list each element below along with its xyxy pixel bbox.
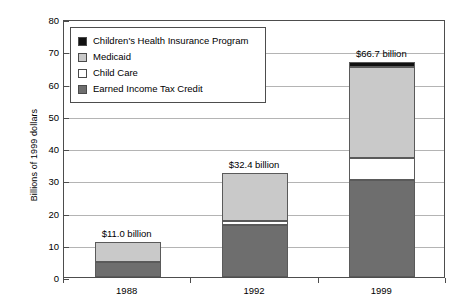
y-axis-tick: [64, 215, 69, 216]
y-axis-tick: [64, 279, 69, 280]
bar-segment-1999-children-s-health-insurance-program[interactable]: [349, 62, 415, 67]
stacked-bar-chart: Billions of 1999 dollars 010203040506070…: [0, 0, 464, 307]
y-axis-tick-label: 10: [19, 240, 59, 251]
y-axis-tick: [64, 150, 69, 151]
legend-item-label: Medicaid: [93, 52, 131, 62]
bar-segment-1988-medicaid[interactable]: [95, 242, 161, 263]
y-axis-tick: [64, 53, 69, 54]
bar-segment-1999-earned-income-tax-credit[interactable]: [349, 180, 415, 277]
bar-total-label-1988: $11.0 billion: [102, 228, 152, 239]
bar-segment-1992-child-care[interactable]: [222, 221, 288, 226]
legend-swatch-icon: [78, 37, 87, 46]
legend-swatch-icon: [78, 85, 87, 94]
x-axis-tick-label-1988: 1988: [87, 285, 167, 296]
bar-segment-1999-medicaid[interactable]: [349, 67, 415, 158]
y-axis-tick-label: 70: [19, 47, 59, 58]
x-axis-tick-label-1992: 1992: [214, 285, 294, 296]
y-axis-tick: [64, 21, 69, 22]
y-axis-tick: [64, 182, 69, 183]
y-axis-tick-label: 20: [19, 208, 59, 219]
y-axis-tick-label: 0: [19, 273, 59, 284]
bar-segment-1992-earned-income-tax-credit[interactable]: [222, 225, 288, 277]
legend-item-children-s-health-insurance-program[interactable]: Children's Health Insurance Program: [78, 33, 258, 49]
legend-swatch-icon: [78, 53, 87, 62]
x-axis-tick-label-1999: 1999: [341, 285, 421, 296]
chart-legend: Children's Health Insurance ProgramMedic…: [70, 27, 266, 103]
bar-segment-1992-medicaid[interactable]: [222, 173, 288, 221]
y-axis-tick-label: 60: [19, 79, 59, 90]
y-axis-tick-label: 80: [19, 15, 59, 26]
legend-item-earned-income-tax-credit[interactable]: Earned Income Tax Credit: [78, 81, 258, 97]
x-axis-tick: [318, 278, 319, 283]
legend-item-label: Children's Health Insurance Program: [93, 36, 248, 46]
legend-item-medicaid[interactable]: Medicaid: [78, 49, 258, 65]
legend-swatch-icon: [78, 69, 87, 78]
legend-item-child-care[interactable]: Child Care: [78, 65, 258, 81]
y-axis-tick: [64, 118, 69, 119]
bar-segment-1988-earned-income-tax-credit[interactable]: [95, 262, 161, 277]
x-axis-tick: [445, 278, 446, 283]
y-axis-tick-label: 40: [19, 144, 59, 155]
legend-item-label: Child Care: [93, 68, 138, 78]
y-axis-tick-label: 30: [19, 176, 59, 187]
legend-item-label: Earned Income Tax Credit: [93, 84, 203, 94]
x-axis-tick: [63, 278, 64, 283]
bar-total-label-1999: $66.7 billion: [356, 48, 407, 59]
x-axis-tick: [190, 278, 191, 283]
y-axis-tick: [64, 86, 69, 87]
bar-segment-1999-child-care[interactable]: [349, 158, 415, 179]
y-axis-tick-label: 50: [19, 111, 59, 122]
bar-total-label-1992: $32.4 billion: [229, 159, 280, 170]
y-axis-tick: [64, 247, 69, 248]
